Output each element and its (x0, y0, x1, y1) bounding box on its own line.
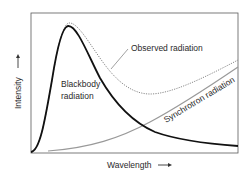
blackbody-label-line1: Blackbody (61, 79, 101, 89)
synchrotron-label: Synchrotron radiation (162, 74, 237, 124)
observed-leader-line (111, 49, 128, 69)
observed-label: Observed radiation (131, 43, 203, 53)
y-axis-label: Intensity (13, 77, 23, 109)
radiation-diagram: Observed radiation Blackbody radiation S… (0, 0, 251, 178)
y-arrow-icon (16, 54, 20, 68)
blackbody-label-line2: radiation (61, 91, 94, 101)
x-axis-label: Wavelength (107, 160, 152, 170)
x-arrow-icon (158, 163, 172, 167)
